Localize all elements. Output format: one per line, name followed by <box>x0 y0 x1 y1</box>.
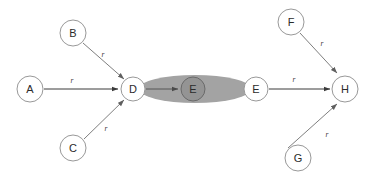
edge-c-to-d <box>84 100 124 139</box>
edge-label-c-d: r <box>105 124 108 133</box>
node-h[interactable]: H <box>332 76 358 102</box>
edge-f-to-h <box>300 33 337 73</box>
node-b[interactable]: B <box>60 20 86 46</box>
node-e-right-label: E <box>252 83 259 95</box>
node-f-label: F <box>288 16 295 28</box>
node-g[interactable]: G <box>285 145 311 171</box>
node-e-inner[interactable]: E <box>181 77 205 101</box>
node-c[interactable]: C <box>60 135 86 161</box>
edge-g-to-h <box>288 104 337 148</box>
edge-label-g-h: r <box>326 130 329 139</box>
node-g-label: G <box>294 152 303 164</box>
node-b-label: B <box>69 27 76 39</box>
node-e-inner-label: E <box>189 83 196 95</box>
node-h-label: H <box>341 83 349 95</box>
node-a-label: A <box>26 83 34 95</box>
node-c-label: C <box>69 142 77 154</box>
edge-b-to-d <box>83 43 124 79</box>
edge-label-b-d: r <box>102 50 105 59</box>
edge-label-e-h: r <box>293 75 296 84</box>
node-d-label: D <box>129 83 137 95</box>
edge-label-f-h: r <box>321 39 324 48</box>
node-f[interactable]: F <box>278 9 304 35</box>
node-d[interactable]: D <box>121 77 145 101</box>
edge-label-a-d: r <box>71 76 74 85</box>
diagram-canvas: r r r r r r A B C D E <box>0 0 373 180</box>
node-a[interactable]: A <box>17 76 43 102</box>
node-e-right[interactable]: E <box>244 77 268 101</box>
